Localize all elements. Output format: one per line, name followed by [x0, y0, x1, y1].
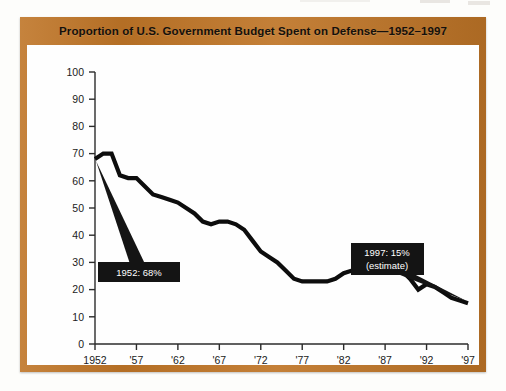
- x-tick-label: '87: [378, 354, 392, 365]
- y-tick-label: 70: [72, 147, 84, 159]
- scan-artifact: [300, 0, 370, 2]
- figure-frame: Proportion of U.S. Government Budget Spe…: [20, 17, 486, 372]
- y-tick-label: 40: [72, 229, 84, 241]
- y-tick-label: 0: [78, 338, 84, 350]
- x-tick-label: 1952: [83, 354, 107, 365]
- x-tick-label: '92: [420, 354, 434, 365]
- y-tick-label: 90: [72, 93, 84, 105]
- scan-artifact: [420, 0, 450, 3]
- x-tick-label: '72: [254, 354, 268, 365]
- annotation-1997-callout: 1997: 15% (estimate): [351, 243, 467, 301]
- x-tick-label: '97: [461, 354, 475, 365]
- y-tick-label: 80: [72, 120, 84, 132]
- x-axis-tick-labels: 1952'57'62'67'72'77'82'87'92'97: [83, 354, 475, 365]
- y-axis-tick-labels: 0102030405060708090100: [66, 66, 84, 350]
- x-tick-label: '57: [130, 354, 144, 365]
- chart-title-bar: Proportion of U.S. Government Budget Spe…: [20, 17, 486, 45]
- x-tick-label: '77: [295, 354, 309, 365]
- scanned-page: Proportion of U.S. Government Budget Spe…: [0, 0, 506, 391]
- scan-artifact: [468, 1, 490, 5]
- page-title: Proportion of U.S. Government Budget Spe…: [59, 25, 447, 37]
- x-tick-label: '62: [171, 354, 185, 365]
- y-tick-label: 100: [66, 66, 84, 78]
- x-axis-ticks: [95, 344, 468, 350]
- x-tick-label: '82: [337, 354, 351, 365]
- plot-panel: 0102030405060708090100 1952'57'62'67'72'…: [27, 45, 479, 365]
- x-tick-label: '67: [212, 354, 226, 365]
- y-tick-label: 10: [72, 311, 84, 323]
- y-tick-label: 20: [72, 283, 84, 295]
- y-axis-ticks: [89, 72, 95, 344]
- y-tick-label: 60: [72, 175, 84, 187]
- callout-text-line: 1952: 68%: [116, 267, 162, 278]
- axes: [95, 72, 468, 344]
- y-tick-label: 50: [72, 202, 84, 214]
- y-tick-label: 30: [72, 256, 84, 268]
- callout-text-line: (estimate): [366, 260, 408, 271]
- callout-text-line: 1997: 15%: [364, 247, 410, 258]
- line-chart: 0102030405060708090100 1952'57'62'67'72'…: [27, 45, 479, 365]
